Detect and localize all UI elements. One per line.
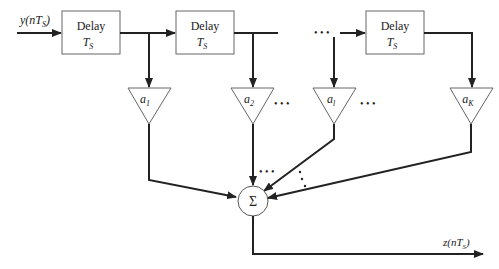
gain-al: al: [313, 88, 356, 124]
gain-aK: aK: [450, 88, 493, 124]
tap-K: [424, 33, 472, 87]
gain-a2: a2: [231, 88, 274, 124]
ellipsis-mid-2: • • •: [360, 98, 376, 109]
output-signal: [253, 216, 483, 254]
delay-block-1: Delay TS: [62, 11, 120, 54]
svg-text:Σ: Σ: [249, 194, 257, 209]
ellipsis-mid-1: • • •: [274, 98, 290, 109]
svg-text:Delay: Delay: [191, 19, 220, 33]
path-a1: [149, 124, 236, 197]
ellipsis-sum: • • •: [259, 166, 275, 177]
input-label: y(nTS): [19, 13, 50, 29]
fir-filter-diagram: y(nTS) Delay TS Delay TS • • • Delay TS …: [0, 0, 499, 269]
svg-text:Delay: Delay: [381, 19, 410, 33]
path-al: [264, 124, 334, 191]
delay-block-3: Delay TS: [366, 11, 424, 54]
summer: Σ: [238, 186, 268, 216]
input-signal: y(nTS): [17, 13, 61, 33]
path-aK: [268, 124, 471, 198]
ellipsis-top: • • •: [314, 27, 330, 38]
output-label: z(nTS): [442, 236, 470, 251]
delay-block-2: Delay TS: [176, 11, 234, 54]
gain-a1: a1: [128, 88, 171, 124]
svg-text:Delay: Delay: [77, 19, 106, 33]
